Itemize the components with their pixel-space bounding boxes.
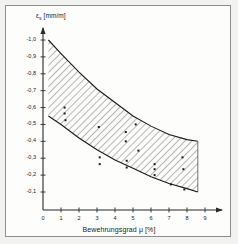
y-tick-label: -0,8	[18, 70, 36, 76]
data-point	[137, 150, 139, 152]
data-point	[182, 168, 184, 170]
y-tick-label: -0,6	[18, 104, 36, 110]
data-point	[125, 140, 127, 142]
y-tick-label: -0,4	[18, 137, 36, 143]
data-point	[182, 156, 184, 158]
data-point	[154, 163, 156, 165]
y-tick-label: -0,3	[18, 154, 36, 160]
x-tick-label: 9	[200, 215, 210, 221]
data-point	[99, 156, 101, 158]
y-tick-label: -0,2	[18, 171, 36, 177]
x-tick-label: 7	[164, 215, 174, 221]
x-tick-label: 3	[92, 215, 102, 221]
y-axis-unit: [mm/m]	[44, 12, 66, 19]
data-point	[135, 123, 137, 125]
y-tick-label: -0,1	[18, 188, 36, 194]
y-tick-label: -0,9	[18, 53, 36, 59]
data-point	[126, 160, 128, 162]
chart-figure: εs [mm/m] Bewehrungsgrad μ [%] -1,0-0,9-…	[0, 0, 238, 244]
x-axis-title: Bewehrungsgrad	[83, 226, 137, 233]
data-point	[170, 183, 172, 185]
data-point	[154, 168, 156, 170]
y-tick-label: -0,7	[18, 87, 36, 93]
x-axis-unit: [%]	[145, 226, 155, 233]
data-point	[183, 188, 185, 190]
data-point	[64, 107, 66, 109]
data-point	[65, 119, 67, 121]
data-point	[64, 112, 66, 114]
x-tick-label: 6	[146, 215, 156, 221]
data-point	[126, 167, 128, 169]
scatter-band-region	[48, 40, 197, 192]
data-point	[125, 131, 127, 133]
data-point	[99, 163, 101, 165]
x-axis-symbol: μ	[139, 226, 143, 233]
data-point	[154, 174, 156, 176]
x-tick-label: 4	[110, 215, 120, 221]
x-tick-label: 8	[182, 215, 192, 221]
y-axis-subscript: s	[39, 15, 42, 21]
x-axis-label: Bewehrungsgrad μ [%]	[0, 226, 238, 233]
x-tick-label: 0	[38, 215, 48, 221]
x-tick-label: 1	[56, 215, 66, 221]
y-tick-label: -1,0	[18, 36, 36, 42]
y-axis-label: εs [mm/m]	[36, 12, 66, 21]
data-point	[98, 126, 100, 128]
y-tick-label: -0,5	[18, 120, 36, 126]
x-tick-label: 2	[74, 215, 84, 221]
x-tick-label: 5	[128, 215, 138, 221]
